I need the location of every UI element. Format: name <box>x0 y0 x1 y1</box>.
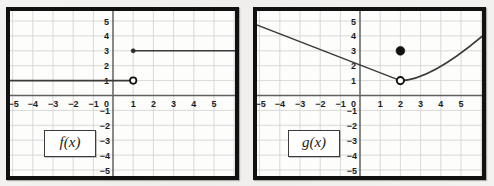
g-line-branch <box>257 24 400 80</box>
svg-text:2: 2 <box>104 61 109 71</box>
svg-text:2: 2 <box>398 99 403 109</box>
svg-text:−3: −3 <box>295 99 305 109</box>
svg-text:3: 3 <box>104 46 109 56</box>
g-open-circle <box>397 77 404 84</box>
svg-text:−4: −4 <box>347 151 357 161</box>
svg-text:−4: −4 <box>275 99 285 109</box>
svg-text:−2: −2 <box>347 121 357 131</box>
svg-text:5: 5 <box>211 99 216 109</box>
svg-text:−3: −3 <box>100 136 110 146</box>
svg-text:2: 2 <box>151 99 156 109</box>
svg-text:4: 4 <box>191 99 196 109</box>
svg-text:3: 3 <box>351 46 356 56</box>
function-label-g: g(x) <box>302 134 326 150</box>
svg-text:3: 3 <box>418 99 423 109</box>
function-label-box-f: f(x) <box>44 130 96 157</box>
function-label-box-g: g(x) <box>288 130 340 157</box>
svg-text:−1: −1 <box>88 99 98 109</box>
svg-text:−1: −1 <box>335 99 345 109</box>
svg-text:−4: −4 <box>28 99 38 109</box>
svg-text:1: 1 <box>131 99 136 109</box>
svg-text:−2: −2 <box>315 99 325 109</box>
function-label-f: f(x) <box>60 134 81 150</box>
svg-text:3: 3 <box>171 99 176 109</box>
svg-text:−3: −3 <box>347 136 357 146</box>
svg-text:5: 5 <box>458 99 463 109</box>
svg-text:4: 4 <box>438 99 443 109</box>
svg-text:−1: −1 <box>100 106 110 116</box>
svg-text:5: 5 <box>104 17 109 27</box>
graph-panel-f: −5 −4 −3 −2 −1 0 1 2 3 4 5 5 4 3 2 1 −1 … <box>6 7 239 180</box>
graph-panel-g: −5 −4 −3 −2 −1 0 1 2 3 4 5 5 4 3 2 1 −1 … <box>253 7 486 180</box>
svg-text:−2: −2 <box>68 99 78 109</box>
f-open-circle <box>130 77 136 83</box>
svg-text:−5: −5 <box>257 99 266 109</box>
svg-text:−5: −5 <box>100 166 110 176</box>
svg-text:4: 4 <box>104 31 109 41</box>
svg-text:−4: −4 <box>100 151 110 161</box>
svg-text:4: 4 <box>351 31 356 41</box>
svg-text:−1: −1 <box>347 106 357 116</box>
svg-text:5: 5 <box>351 17 356 27</box>
svg-text:−3: −3 <box>48 99 58 109</box>
g-curve-branch <box>400 34 482 81</box>
g-closed-dot <box>396 46 405 55</box>
svg-text:−5: −5 <box>347 166 357 176</box>
svg-text:1: 1 <box>351 76 356 86</box>
svg-text:−2: −2 <box>100 121 110 131</box>
svg-text:−5: −5 <box>10 99 19 109</box>
f-closed-dot <box>131 49 135 53</box>
svg-text:1: 1 <box>378 99 383 109</box>
